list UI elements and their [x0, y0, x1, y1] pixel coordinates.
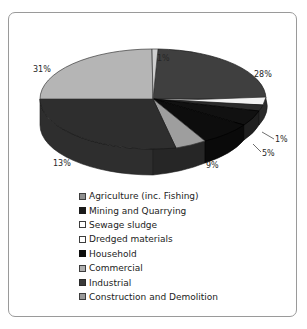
legend-label-commercial: Commercial — [89, 263, 143, 273]
legend-item-industrial[interactable]: Industrial — [9, 275, 297, 289]
legend-item-commercial[interactable]: Commercial — [9, 261, 297, 275]
slice-construction-demolition — [40, 49, 153, 99]
legend-label-industrial: Industrial — [89, 278, 131, 288]
legend-swatch-icon-industrial — [79, 279, 86, 286]
legend-label-agriculture: Agriculture (inc. Fishing) — [89, 191, 199, 201]
legend-label-mining-quarrying: Mining and Quarrying — [89, 206, 186, 216]
legend-item-agriculture[interactable]: Agriculture (inc. Fishing) — [9, 189, 297, 203]
legend-item-mining-quarrying[interactable]: Mining and Quarrying — [9, 203, 297, 217]
legend-swatch-icon-mining-quarrying — [79, 207, 86, 214]
legend-item-dredged-materials[interactable]: Dredged materials — [9, 232, 297, 246]
slice-label-mining: 1% — [275, 135, 288, 144]
slice-label-dredged: 9% — [206, 161, 219, 170]
slice-label-sewage: 5% — [262, 149, 275, 158]
legend-swatch-icon-agriculture — [79, 193, 86, 200]
chart-figure-frame: 1% 28% 1% 5% 9% 13% 31% Agriculture (inc… — [8, 12, 297, 317]
legend-label-dredged-materials: Dredged materials — [89, 234, 173, 244]
legend-item-household[interactable]: Household — [9, 247, 297, 261]
chart-legend: Agriculture (inc. Fishing) Mining and Qu… — [9, 189, 297, 304]
legend-swatch-icon-household — [79, 250, 86, 257]
legend-label-household: Household — [89, 249, 137, 259]
legend-label-construction-demolition: Construction and Demolition — [89, 292, 218, 302]
leader-line-one-percent — [262, 132, 274, 139]
legend-swatch-icon-commercial — [79, 265, 86, 272]
legend-swatch-icon-dredged-materials — [79, 236, 86, 243]
slice-label-agriculture: 28% — [254, 70, 272, 79]
slice-label-industrial: 31% — [33, 65, 51, 74]
pie-chart-plot-area: 1% 28% 1% 5% 9% 13% 31% — [9, 13, 297, 188]
legend-item-sewage-sludge[interactable]: Sewage sludge — [9, 218, 297, 232]
legend-label-sewage-sludge: Sewage sludge — [89, 220, 157, 230]
legend-item-construction-demolition[interactable]: Construction and Demolition — [9, 290, 297, 304]
slice-label-top-one: 1% — [157, 54, 170, 63]
legend-swatch-icon-sewage-sludge — [79, 221, 86, 228]
slice-label-household: 13% — [53, 159, 71, 168]
legend-swatch-icon-construction-demolition — [79, 293, 86, 300]
leader-line-five-percent — [253, 144, 261, 152]
